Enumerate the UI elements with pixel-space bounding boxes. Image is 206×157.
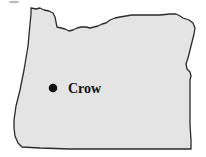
state-map: Crow	[0, 0, 206, 157]
oregon-outline	[14, 8, 195, 149]
city-marker-icon	[49, 84, 58, 93]
city-label-crow: Crow	[68, 81, 102, 96]
scan-speck	[9, 1, 19, 3]
